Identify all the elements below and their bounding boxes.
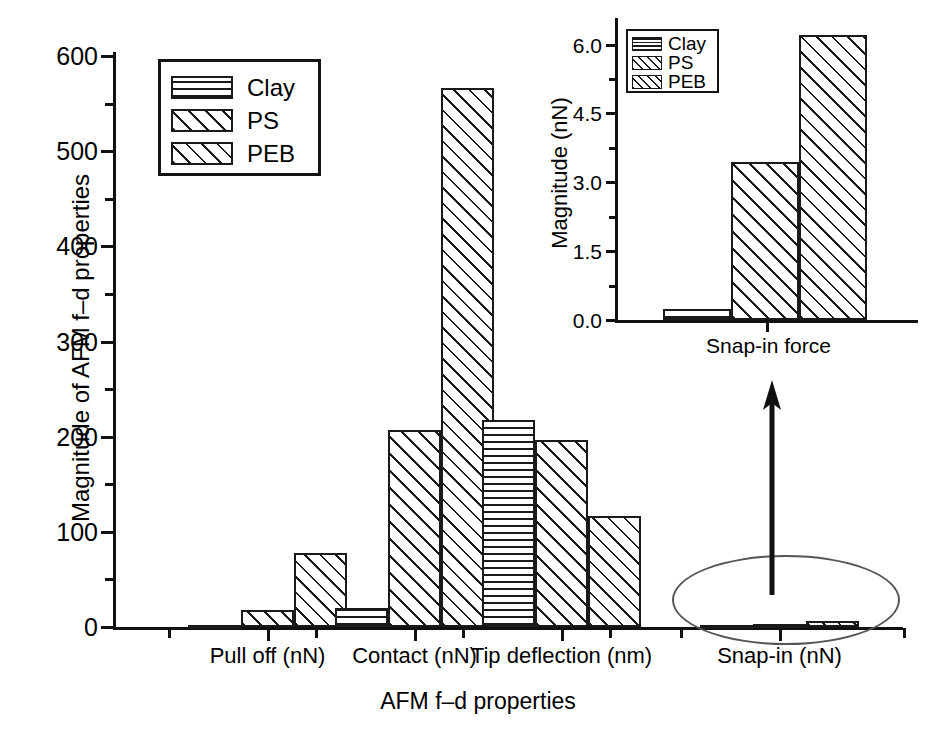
inset-y-minor-tick (609, 285, 618, 288)
inset-y-tick-label: 3.0 (573, 172, 602, 193)
inset-y-major-tick (606, 319, 618, 322)
inset-y-minor-tick (609, 78, 618, 81)
inset-y-major-tick (606, 44, 618, 47)
inset-y-major-tick (606, 112, 618, 115)
inset-y-major-tick (606, 181, 618, 184)
inset-y-tick-label: 6.0 (573, 34, 602, 55)
bar-ps-0 (731, 162, 799, 320)
inset-legend: Clay PS PEB (626, 29, 719, 93)
inset-legend-swatch-ps-icon (632, 56, 662, 70)
inset-chart: 0.01.53.04.56.0 Magnitude (nN) Snap-in f… (0, 0, 949, 735)
inset-y-major-tick (606, 250, 618, 253)
figure-bar-chart-afm-fd-properties: 0100200300400500600 Magnitude of AFM f–d… (0, 0, 949, 735)
inset-x-tick (766, 321, 769, 332)
inset-legend-row-ps: PS (632, 53, 713, 72)
inset-legend-row-peb: PEB (632, 72, 713, 91)
inset-y-axis-line (615, 18, 618, 323)
inset-x-axis-label: Snap-in force (641, 335, 896, 356)
inset-legend-row-clay: Clay (632, 34, 713, 53)
inset-legend-label-peb: PEB (668, 71, 706, 93)
inset-y-minor-tick (609, 147, 618, 150)
inset-y-tick-label: 1.5 (573, 241, 602, 262)
inset-y-tick-label: 4.5 (573, 103, 602, 124)
bar-clay-0 (663, 309, 731, 320)
inset-y-axis-label: Magnitude (nN) (549, 53, 571, 293)
inset-y-tick-labels: 0.01.53.04.56.0 (0, 0, 602, 400)
bar-peb-0 (799, 35, 867, 320)
inset-y-tick-label: 0.0 (573, 310, 602, 331)
inset-legend-swatch-clay-icon (632, 37, 662, 51)
inset-y-minor-tick (609, 216, 618, 219)
inset-legend-swatch-peb-icon (632, 75, 662, 89)
